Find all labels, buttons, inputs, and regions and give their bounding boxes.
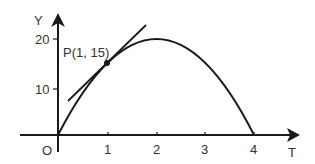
x-tick-label-1: 1	[104, 142, 111, 157]
y-tick-label-20: 20	[35, 32, 49, 47]
x-tick-label-2: 2	[153, 142, 160, 157]
y-tick-label-10: 10	[35, 82, 49, 97]
x-tick-label-3: 3	[201, 142, 208, 157]
x-axis-label: T	[288, 145, 296, 160]
x-tick-label-4: 4	[250, 142, 257, 157]
chart: Y T O 10 20 1 2 3 4 P(1, 15)	[0, 0, 315, 164]
origin-label: O	[42, 143, 52, 158]
point-p-marker	[104, 60, 110, 66]
y-axis-label: Y	[34, 13, 43, 28]
point-label: P(1, 15)	[63, 45, 109, 60]
